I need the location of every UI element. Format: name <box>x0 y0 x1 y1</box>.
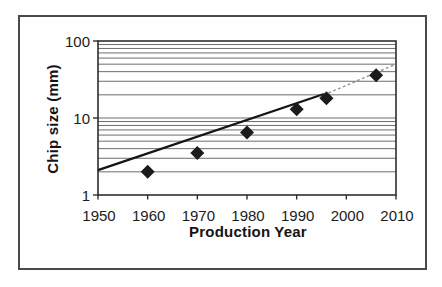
y-tick-label-10: 10 <box>73 110 90 127</box>
x-tick-label-1960: 1960 <box>132 207 165 224</box>
x-tick-label-1970: 1970 <box>182 207 215 224</box>
y-tick-label-1: 1 <box>82 187 90 204</box>
x-tick-label-2000: 2000 <box>331 207 364 224</box>
x-tick-label-1980: 1980 <box>231 207 264 224</box>
tick-labels-layer: 1950196019701980199020002010110100 <box>0 0 442 287</box>
x-tick-label-1990: 1990 <box>281 207 314 224</box>
x-tick-label-1950: 1950 <box>82 207 115 224</box>
y-tick-label-100: 100 <box>65 33 90 50</box>
scanned-figure-page: Chip size (mm) Production Year 195019601… <box>0 0 442 287</box>
x-tick-label-2010: 2010 <box>380 207 413 224</box>
